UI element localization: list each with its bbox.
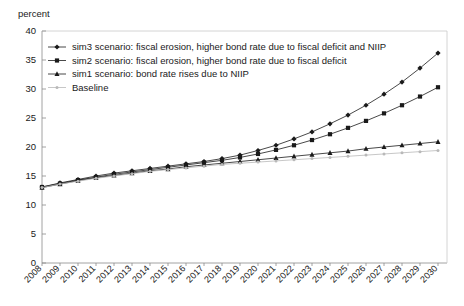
x-tick-label: 2014 xyxy=(130,263,151,284)
x-tick-label: 2023 xyxy=(292,263,313,284)
x-tick-label: 2028 xyxy=(382,263,403,284)
y-axis-title: percent xyxy=(18,8,50,19)
y-tick-label: 35 xyxy=(25,54,36,65)
x-tick-label: 2016 xyxy=(166,263,187,284)
x-tick-label: 2009 xyxy=(40,263,61,284)
y-tick-label: 5 xyxy=(31,228,36,239)
x-tick-label: 2024 xyxy=(310,263,331,284)
y-tick-label: 10 xyxy=(25,199,36,210)
legend-label: sim1 scenario: bond rate rises due to NI… xyxy=(72,68,249,79)
chart-legend: sim3 scenario: fiscal erosion, higher bo… xyxy=(48,41,386,93)
x-tick-label: 2018 xyxy=(202,263,223,284)
chart-figure: percent 0510152025303540 200820092010201… xyxy=(0,0,464,306)
x-tick-label: 2029 xyxy=(400,263,421,284)
x-tick-label: 2022 xyxy=(274,263,295,284)
legend-item-sim3[interactable]: sim3 scenario: fiscal erosion, higher bo… xyxy=(48,41,386,52)
x-tick-label: 2017 xyxy=(184,263,205,284)
legend-label: sim2 scenario: fiscal erosion, higher bo… xyxy=(72,55,347,66)
legend-label: Baseline xyxy=(72,82,108,93)
x-tick-label: 2021 xyxy=(256,263,277,284)
x-tick-label: 2011 xyxy=(77,263,98,284)
legend-item-sim1[interactable]: sim1 scenario: bond rate rises due to NI… xyxy=(48,68,249,79)
x-tick-label: 2012 xyxy=(94,263,115,284)
x-tick-label: 2015 xyxy=(148,263,169,284)
x-tick-label: 2013 xyxy=(112,263,133,284)
x-tick-label: 2019 xyxy=(220,263,241,284)
x-tick-label: 2025 xyxy=(328,263,349,284)
legend-label: sim3 scenario: fiscal erosion, higher bo… xyxy=(72,41,386,52)
y-tick-label: 25 xyxy=(25,112,36,123)
y-tick-label: 30 xyxy=(25,83,36,94)
y-tick-label: 20 xyxy=(25,141,36,152)
x-tick-label: 2027 xyxy=(364,263,385,284)
y-tick-label: 15 xyxy=(25,170,36,181)
series-sim2 xyxy=(40,85,440,189)
x-axis-ticks: 2008200920102011201220132014201520162017… xyxy=(22,263,439,285)
y-tick-label: 40 xyxy=(25,25,36,36)
x-tick-label: 2020 xyxy=(238,263,259,284)
x-tick-label: 2026 xyxy=(346,263,367,284)
y-axis-ticks: 0510152025303540 xyxy=(25,25,46,268)
x-tick-label: 2010 xyxy=(58,263,79,284)
legend-item-sim2[interactable]: sim2 scenario: fiscal erosion, higher bo… xyxy=(48,55,347,66)
x-tick-label: 2030 xyxy=(418,263,439,284)
line-chart-svg: percent 0510152025303540 200820092010201… xyxy=(0,0,464,306)
legend-item-baseline[interactable]: Baseline xyxy=(48,82,108,93)
x-tick-label: 2008 xyxy=(22,263,43,284)
